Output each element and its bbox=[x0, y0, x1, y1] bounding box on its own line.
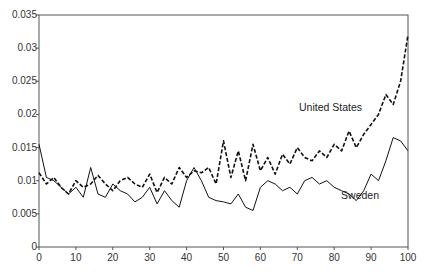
chart-series bbox=[39, 35, 408, 211]
y-tick-label: 0.015 bbox=[12, 142, 37, 153]
x-tick-label: 10 bbox=[70, 252, 82, 263]
series-label: Sweden bbox=[341, 189, 379, 201]
x-tick-label: 90 bbox=[366, 252, 378, 263]
x-tick-label: 20 bbox=[107, 252, 119, 263]
y-tick-label: 0.025 bbox=[12, 75, 37, 86]
y-tick-label: 0.02 bbox=[18, 108, 38, 119]
x-tick-label: 70 bbox=[292, 252, 304, 263]
y-tick-label: 0.01 bbox=[18, 175, 38, 186]
x-tick-label: 30 bbox=[144, 252, 156, 263]
x-tick-label: 50 bbox=[218, 252, 230, 263]
y-tick-label: 0.03 bbox=[18, 42, 38, 53]
plot-frame bbox=[39, 15, 408, 247]
chart-annotations: United StatesSweden bbox=[299, 101, 379, 201]
x-tick-label: 80 bbox=[329, 252, 341, 263]
y-tick-label: 0 bbox=[31, 241, 37, 252]
series-united-states bbox=[39, 35, 408, 194]
y-tick-label: 0.035 bbox=[12, 9, 37, 20]
chart-axes: 010203040506070809010000.0050.010.0150.0… bbox=[12, 9, 417, 263]
x-tick-label: 100 bbox=[400, 252, 417, 263]
x-tick-label: 0 bbox=[36, 252, 42, 263]
x-tick-label: 60 bbox=[255, 252, 267, 263]
series-label: United States bbox=[299, 101, 362, 113]
y-tick-label: 0.005 bbox=[12, 208, 37, 219]
x-tick-label: 40 bbox=[181, 252, 193, 263]
line-chart: 010203040506070809010000.0050.010.0150.0… bbox=[0, 0, 430, 275]
